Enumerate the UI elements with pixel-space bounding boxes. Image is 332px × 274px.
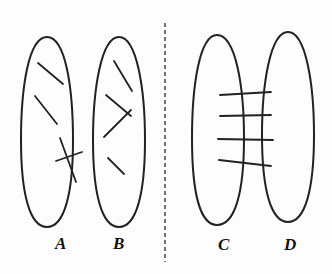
bridge-line-3: [218, 139, 273, 140]
cell-a: [21, 37, 82, 227]
label-a: A: [54, 234, 66, 253]
diagram-canvas: A B C D: [0, 0, 332, 274]
segment-b-4: [108, 158, 124, 174]
label-c: C: [218, 235, 230, 254]
ellipse-c: [192, 35, 244, 225]
segment-a-1: [38, 63, 63, 84]
ellipse-d: [262, 32, 314, 222]
bridges-c-d: [218, 92, 273, 166]
bridge-line-2: [220, 115, 271, 116]
segment-a-2: [35, 96, 57, 124]
cell-d: [262, 32, 314, 222]
segment-b-1: [114, 61, 132, 91]
segment-b-3: [104, 110, 131, 137]
cell-b: [93, 37, 145, 227]
diagram-svg: A B C D: [0, 0, 332, 274]
segment-a-4: [56, 152, 82, 161]
label-d: D: [283, 235, 296, 254]
ellipse-a: [21, 37, 73, 227]
label-b: B: [112, 234, 124, 253]
ellipse-b: [93, 37, 145, 227]
cell-c: [192, 35, 244, 225]
